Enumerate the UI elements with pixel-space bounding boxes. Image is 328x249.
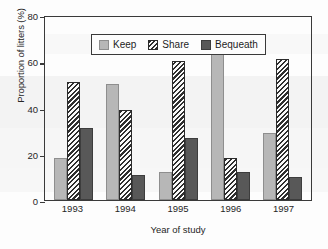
bar-keep-1995: [159, 172, 172, 200]
bar-share-1993: [67, 82, 80, 200]
x-tick-label-1995: 1995: [152, 203, 205, 214]
legend-swatch-share: [148, 40, 158, 50]
plot-area: 806040200 KeepShareBequeath: [44, 16, 312, 201]
bar-keep-1993: [54, 158, 67, 200]
bar-bequeath-1995: [185, 138, 198, 200]
x-tick-label-1994: 1994: [99, 203, 152, 214]
x-axis-label: Year of study: [44, 224, 312, 235]
y-tick-label: 20: [27, 149, 38, 162]
bar-keep-1994: [106, 84, 119, 200]
y-tick-label: 80: [27, 10, 38, 23]
bar-share-1995: [172, 61, 185, 200]
legend-label: Keep: [113, 39, 136, 50]
y-tick-label: 60: [27, 56, 38, 69]
bar-share-1997: [276, 59, 289, 200]
legend-label: Share: [162, 39, 189, 50]
y-tick-0: 0: [19, 202, 45, 203]
legend-swatch-keep: [99, 40, 109, 50]
y-axis-label: Proportion of litters (%): [15, 0, 26, 131]
legend-label: Bequeath: [215, 39, 258, 50]
bar-bequeath-1994: [132, 175, 145, 200]
y-tick-20: 20: [19, 156, 45, 157]
bar-bequeath-1997: [289, 177, 302, 200]
legend-entry-bequeath: Bequeath: [201, 39, 258, 50]
bar-keep-1997: [263, 133, 276, 200]
y-tick-label: 40: [27, 103, 38, 116]
bar-bequeath-1993: [80, 128, 93, 200]
chart-legend: KeepShareBequeath: [91, 34, 266, 55]
x-tick-label-1996: 1996: [204, 203, 257, 214]
bar-chart-figure: Proportion of litters (%) 806040200 Keep…: [0, 0, 328, 249]
legend-entry-share: Share: [148, 39, 189, 50]
x-axis-ticks: 19931994199519961997: [44, 203, 312, 214]
y-tick-40: 40: [19, 110, 45, 111]
legend-swatch-bequeath: [201, 40, 211, 50]
x-tick-label-1997: 1997: [257, 203, 310, 214]
legend-entry-keep: Keep: [99, 39, 136, 50]
y-tick-80: 80: [19, 17, 45, 18]
bar-share-1996: [224, 158, 237, 200]
y-tick-label: 0: [33, 195, 38, 208]
y-tick-60: 60: [19, 63, 45, 64]
bar-share-1994: [119, 110, 132, 200]
bar-keep-1996: [211, 36, 224, 200]
x-tick-label-1993: 1993: [46, 203, 99, 214]
bar-bequeath-1996: [237, 172, 250, 200]
